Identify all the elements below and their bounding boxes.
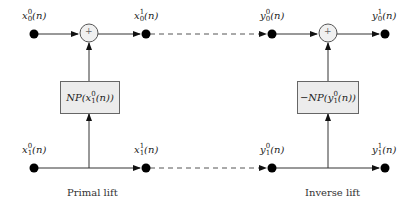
inverse-top-in-node (268, 30, 277, 39)
primal-top-out-label: x10(n) (134, 9, 158, 23)
primal-predict-box: NP(x01(n)) (60, 81, 120, 114)
inverse-top-out-label: y10(n) (372, 9, 396, 23)
primal-top-in-label: x00(n) (22, 9, 46, 23)
primal-bot-out-label: x11(n) (134, 143, 158, 157)
inverse-adder-plus: + (324, 26, 332, 36)
primal-top-in-node (30, 30, 39, 39)
primal-bot-out-node (142, 164, 151, 173)
primal-adder-plus: + (85, 26, 93, 36)
primal-bot-in-label: x01(n) (22, 143, 46, 157)
inverse-bot-out-label: y11(n) (372, 143, 396, 157)
inverse-bot-out-node (381, 164, 390, 173)
primal-bot-in-node (30, 164, 39, 173)
inverse-bot-in-node (268, 164, 277, 173)
primal-lift-caption: Primal lift (67, 187, 118, 198)
inverse-predict-box: −NP(y01(n)) (297, 81, 359, 114)
inverse-lift-caption: Inverse lift (305, 187, 360, 198)
primal-top-out-node (142, 30, 151, 39)
inverse-bot-in-label: y01(n) (260, 143, 284, 157)
inverse-top-in-label: y00(n) (260, 9, 284, 23)
inverse-top-out-node (381, 30, 390, 39)
